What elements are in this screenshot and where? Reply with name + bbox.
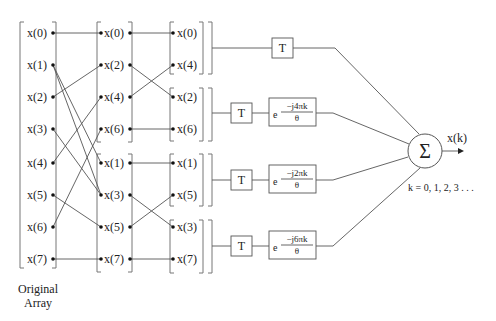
col2-item: x(0)	[104, 26, 124, 40]
twiddle-denominator: θ	[295, 180, 299, 190]
col2-item: x(2)	[104, 58, 124, 72]
col3-item: x(1)	[177, 156, 197, 170]
branch-2: T e −j2πk θ	[212, 157, 408, 193]
col2-item: x(7)	[104, 252, 124, 266]
col2-item: x(3)	[104, 188, 124, 202]
col3-item: x(0)	[177, 26, 197, 40]
delay-label: T	[238, 239, 246, 253]
wire	[53, 65, 101, 163]
twiddle-denominator: θ	[295, 113, 299, 123]
wire	[53, 97, 101, 163]
wire	[53, 65, 101, 97]
twiddle-base: e	[273, 109, 278, 120]
twiddle-exponent: −j4πk	[286, 101, 308, 111]
col2-item: x(5)	[104, 220, 124, 234]
col1-item: x(2)	[27, 90, 47, 104]
delay-label: T	[279, 41, 287, 55]
stage2-connections	[130, 33, 173, 259]
column1-labels: x(0) x(1) x(2) x(3) x(4) x(5) x(6) x(7)	[27, 26, 47, 266]
arrow-icon	[458, 148, 464, 154]
col3-item: x(5)	[177, 188, 197, 202]
stage1-connections	[53, 33, 101, 259]
caption-original: Original	[18, 282, 59, 296]
k-range: k = 0, 1, 2, 3 . . .	[408, 182, 474, 193]
col3-item: x(7)	[177, 252, 197, 266]
twiddle-exponent: −j6πk	[286, 234, 308, 244]
col1-item: x(3)	[27, 122, 47, 136]
branch-1: T e −j4πk θ	[212, 98, 409, 144]
twiddle-base: e	[273, 242, 278, 253]
caption-array: Array	[24, 296, 52, 310]
outer-brackets	[208, 22, 212, 273]
summer-node: Σ	[408, 134, 442, 168]
twiddle-base: e	[273, 176, 278, 187]
twiddle-denominator: θ	[295, 246, 299, 256]
twiddle-exponent: −j2πk	[286, 168, 308, 178]
col1-item: x(1)	[27, 58, 47, 72]
output-label: x(k)	[447, 131, 467, 145]
delay-label: T	[238, 173, 246, 187]
sigma-icon: Σ	[419, 140, 431, 162]
col3-item: x(6)	[177, 122, 197, 136]
wire	[53, 129, 101, 195]
col2-item: x(4)	[104, 90, 124, 104]
col1-item: x(4)	[27, 156, 47, 170]
wire	[53, 129, 101, 227]
col2-item: x(1)	[104, 156, 124, 170]
delay-label: T	[238, 106, 246, 120]
col1-item: x(7)	[27, 252, 47, 266]
col3-item: x(4)	[177, 58, 197, 72]
column2-labels: x(0) x(2) x(4) x(6) x(1) x(3) x(5) x(7)	[104, 26, 124, 266]
col1-item: x(0)	[27, 26, 47, 40]
fft-diagram: x(0) x(1) x(2) x(3) x(4) x(5) x(6) x(7) …	[0, 0, 496, 321]
column3-labels: x(0) x(4) x(2) x(6) x(1) x(5) x(3) x(7)	[177, 26, 197, 266]
col1-item: x(5)	[27, 188, 47, 202]
wire	[53, 195, 101, 227]
col3-item: x(2)	[177, 90, 197, 104]
col3-item: x(3)	[177, 220, 197, 234]
col2-item: x(6)	[104, 122, 124, 136]
col1-item: x(6)	[27, 220, 47, 234]
